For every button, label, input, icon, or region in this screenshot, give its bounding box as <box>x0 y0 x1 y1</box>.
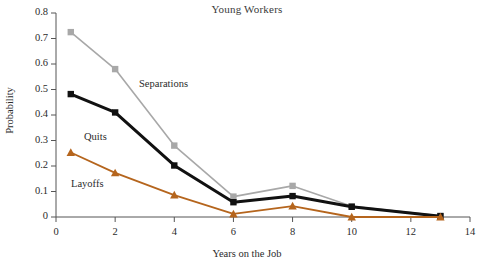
data-point-marker <box>67 148 75 156</box>
y-axis-title: Probability <box>4 76 15 146</box>
data-point-marker <box>230 193 236 199</box>
series-group <box>67 29 445 221</box>
series-quits <box>68 91 444 220</box>
y-tick-label: 0.1 <box>4 185 48 196</box>
series-label-separations: Separations <box>139 78 188 89</box>
data-point-marker <box>171 142 177 148</box>
y-tick-label: 0.6 <box>4 57 48 68</box>
data-point-marker <box>68 29 74 35</box>
x-tick-label: 14 <box>450 226 490 237</box>
x-tick-label: 2 <box>95 226 135 237</box>
data-point-marker <box>230 199 236 205</box>
x-tick-label: 10 <box>332 226 372 237</box>
x-tick-label: 0 <box>36 226 76 237</box>
data-point-marker <box>112 66 118 72</box>
data-point-marker <box>68 91 74 97</box>
data-point-marker <box>349 204 355 210</box>
y-tick-label: 0.8 <box>4 6 48 17</box>
series-label-layoffs: Layoffs <box>71 178 103 189</box>
axes-group <box>51 13 470 222</box>
series-separations <box>68 29 444 219</box>
y-tick-label: 0.7 <box>4 32 48 43</box>
x-tick-label: 6 <box>213 226 253 237</box>
x-tick-label: 8 <box>273 226 313 237</box>
chart-container: Young Workers 00.10.20.30.40.50.60.70.8 … <box>0 0 494 271</box>
y-tick-label: 0.2 <box>4 159 48 170</box>
y-tick-label: 0 <box>4 210 48 221</box>
data-point-marker <box>289 183 295 189</box>
x-tick-label: 4 <box>154 226 194 237</box>
x-axis-title: Years on the Job <box>0 248 494 259</box>
data-point-marker <box>112 109 118 115</box>
x-tick-label: 12 <box>391 226 431 237</box>
data-point-marker <box>289 193 295 199</box>
series-label-quits: Quits <box>84 131 107 142</box>
data-point-marker <box>171 162 177 168</box>
